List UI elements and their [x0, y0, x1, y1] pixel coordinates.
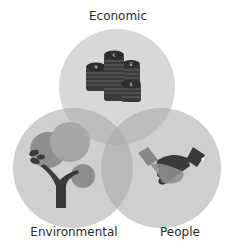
coin-stack-dollar: $ — [121, 80, 141, 103]
label-environmental: Environmental — [24, 225, 124, 239]
svg-text:¥: ¥ — [94, 64, 97, 70]
label-people: People — [130, 225, 230, 239]
svg-text:€: € — [112, 52, 115, 58]
svg-text:$: $ — [129, 81, 132, 87]
svg-text:£: £ — [129, 61, 132, 67]
label-economic: Economic — [0, 9, 236, 23]
coin-stack-yen: ¥ — [86, 63, 106, 92]
venn-diagram: ¥ £ € — [0, 0, 236, 250]
